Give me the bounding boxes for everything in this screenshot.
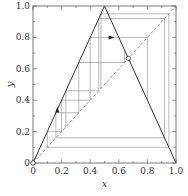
x-tick-labels: 00.20.40.60.81.0 [30,166,183,176]
x-tick-label: 0.4 [83,166,98,176]
x-tick-label: 1.0 [169,166,184,176]
y-tick-label: 0.4 [16,95,31,105]
x-tick-label: 0.2 [54,166,68,176]
y-tick-label: 0.8 [16,32,31,42]
y-tick-label: 1.0 [16,1,31,11]
diagonal-line [33,6,176,163]
x-axis-label: x [102,178,108,189]
x-tick-label: 0.8 [140,166,155,176]
y-tick-label: 0.6 [16,64,31,74]
x-tick-label: 0.6 [112,166,127,176]
y-axis-label: y [4,81,15,88]
fixed-point-marker [126,56,130,60]
fixed-point-marker [31,161,35,165]
tent-map-cobweb-chart: 00.20.40.60.81.0 00.20.40.60.81.0 x y [0,0,188,196]
y-tick-labels: 00.20.40.60.81.0 [16,1,31,168]
y-tick-label: 0.2 [16,127,30,137]
arrow-icon [109,35,115,39]
x-tick-label: 0 [30,166,36,176]
y-tick-label: 0 [24,158,30,168]
